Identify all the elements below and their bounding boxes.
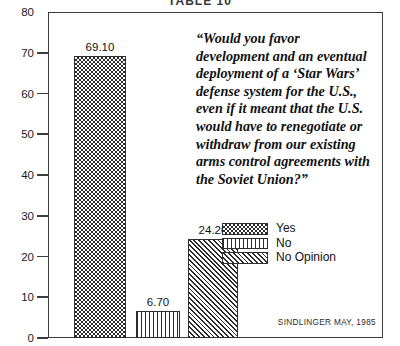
legend-label: No Opinion: [276, 251, 336, 265]
y-axis-tick-mark: [37, 215, 48, 217]
bar-yes: 69.10: [74, 12, 126, 338]
y-axis-tick-10: 10: [0, 290, 48, 304]
y-axis-tick-mark: [37, 93, 48, 95]
legend-swatch-diagonal-hatch: [222, 252, 268, 264]
legend-item-no: No: [222, 237, 362, 251]
y-axis-tick-20: 20: [0, 250, 48, 264]
legend-label: Yes: [276, 222, 296, 236]
y-axis-tick-mark: [37, 337, 48, 339]
bar-value-label: 69.10: [86, 41, 115, 54]
y-axis-tick-mark: [37, 133, 48, 135]
y-axis-tick-label: 20: [21, 250, 34, 264]
y-axis-tick-label: 80: [21, 5, 34, 19]
table-caption: TABLE 10: [0, 0, 400, 6]
legend-label: No: [276, 237, 291, 251]
bar-no: 6.70: [136, 12, 180, 338]
y-axis-tick-label: 40: [21, 168, 34, 182]
legend-swatch-checkerboard: [222, 223, 268, 235]
legend-item-no-opinion: No Opinion: [222, 251, 362, 265]
y-axis-tick-0: 0: [0, 331, 48, 345]
legend-swatch-vertical-stripes: [222, 238, 268, 250]
y-axis-tick-50: 50: [0, 127, 48, 141]
y-axis-tick-label: 30: [21, 209, 34, 223]
y-axis-tick-mark: [37, 174, 48, 176]
y-axis-tick-label: 10: [21, 290, 34, 304]
y-axis-tick-80: 80: [0, 5, 48, 19]
bar-value-label: 6.70: [147, 296, 169, 309]
y-axis-tick-mark: [37, 52, 48, 54]
y-axis-tick-label: 0: [28, 331, 34, 345]
y-axis-tick-label: 50: [21, 127, 34, 141]
source-attribution: SINDLINGER MAY, 1985: [246, 318, 376, 327]
bar-rect: [136, 311, 180, 338]
y-axis: 01020304050607080: [0, 0, 48, 346]
legend: YesNoNo Opinion: [222, 222, 362, 266]
bar-rect: [74, 56, 126, 338]
y-axis-tick-label: 70: [21, 46, 34, 60]
y-axis-tick-60: 60: [0, 87, 48, 101]
y-axis-tick-40: 40: [0, 168, 48, 182]
legend-item-yes: Yes: [222, 222, 362, 236]
y-axis-tick-label: 60: [21, 87, 34, 101]
y-axis-tick-30: 30: [0, 209, 48, 223]
y-axis-tick-mark: [37, 296, 48, 298]
survey-question-quote: “Would you favor development and an even…: [196, 30, 376, 188]
y-axis-tick-mark: [37, 256, 48, 258]
y-axis-tick-70: 70: [0, 46, 48, 60]
